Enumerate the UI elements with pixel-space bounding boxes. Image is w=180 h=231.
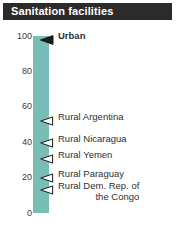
y-axis-tick-label: 100 (2, 32, 32, 41)
sanitation-facilities-chart: Sanitation facilities 100806040200 Urban… (0, 0, 180, 231)
annotation-label: Rural Paraguay (58, 168, 124, 179)
annotation-label: Rural Argentina (58, 111, 123, 122)
annotation-label: Rural Yemen (58, 149, 112, 160)
annotation-label: Rural Nicaragua (58, 133, 127, 144)
y-axis-tick-label: 80 (2, 67, 32, 76)
hollow-triangle-left-icon (40, 181, 54, 191)
hollow-triangle-left-icon (40, 134, 54, 144)
annotation-label-line2: the Congo (58, 191, 139, 202)
hollow-triangle-left-icon (40, 112, 54, 122)
hollow-triangle-left-icon (40, 150, 54, 160)
y-axis-tick-label: 60 (2, 102, 32, 111)
y-axis-tick-label: 20 (2, 173, 32, 182)
hollow-triangle-left-icon (40, 169, 54, 179)
annotation-label: Rural Dem. Rep. ofthe Congo (58, 180, 139, 202)
y-axis-tick-label: 40 (2, 138, 32, 147)
plot-area: 100806040200 UrbanRural ArgentinaRural N… (0, 0, 180, 231)
solid-triangle-left-icon (40, 31, 54, 41)
annotation-label-line1: Rural Dem. Rep. of (58, 180, 139, 191)
annotation-label: Urban (58, 30, 85, 41)
y-axis-tick-label: 0 (2, 209, 32, 218)
